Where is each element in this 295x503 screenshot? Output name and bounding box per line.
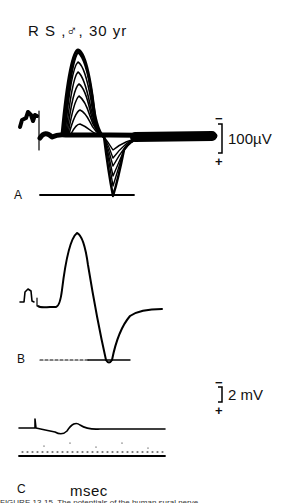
scale-bar-2-plus: + <box>215 404 223 417</box>
panel-a-traces <box>20 50 215 196</box>
panel-label-a: A <box>14 188 22 202</box>
scale-bar-1-plus: + <box>215 155 223 168</box>
panel-c-trace <box>19 419 165 456</box>
scale-bar-2-label: 2 mV <box>228 386 263 403</box>
panel-label-c: C <box>17 482 26 496</box>
scale-bar-1-minus: − <box>215 112 223 125</box>
scale-bar-1-label: 100µV <box>228 130 272 147</box>
panel-label-b: B <box>17 352 25 366</box>
scale-bar-100uv <box>218 124 222 153</box>
figure-traces <box>0 0 295 503</box>
scale-bar-2-minus: − <box>215 376 223 389</box>
figure-caption: FIGURE 13-15. The potentials of the huma… <box>0 497 295 503</box>
panel-b-trace <box>20 233 162 363</box>
